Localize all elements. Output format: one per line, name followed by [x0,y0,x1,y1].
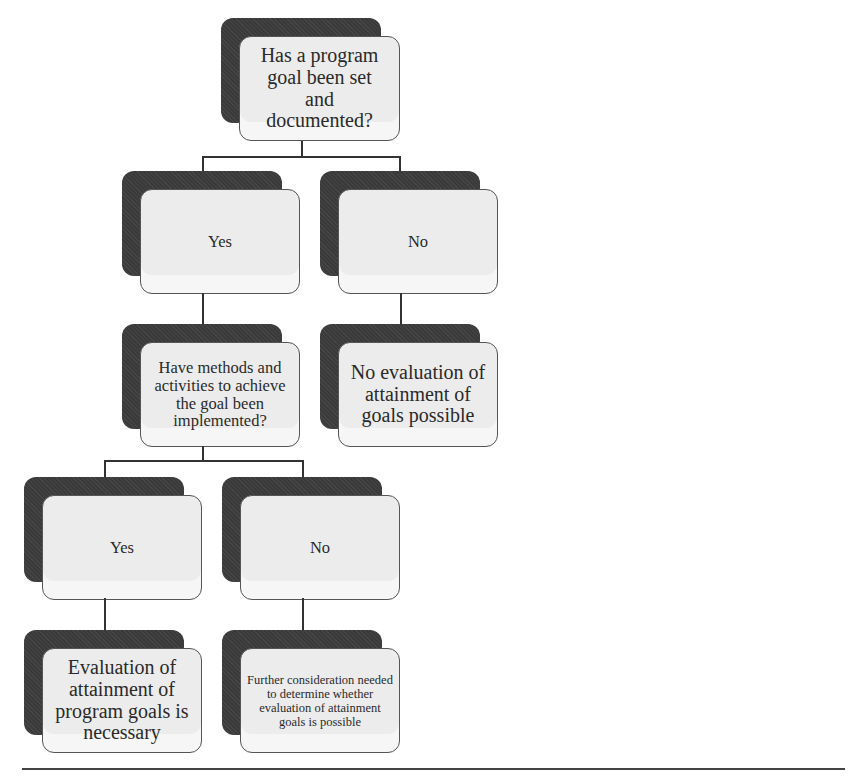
connector [400,293,402,324]
connector [202,156,204,172]
node-label: No [304,539,336,557]
node-box: Yes [140,189,300,294]
node-box: Evaluation of attainment of program goal… [42,648,202,753]
node-label: Yes [202,233,238,251]
bottom-rule-divider [22,768,845,770]
connector [202,446,204,461]
node-label: Have methods and activities to achieve t… [141,359,299,430]
node-box: No [338,189,498,294]
node-label: No evaluation of attainment of goals pos… [339,362,497,427]
node-label: Further consideration needed to determin… [241,673,399,729]
connector [202,293,204,324]
node-box: No evaluation of attainment of goals pos… [338,342,498,447]
node-label: Yes [104,539,140,557]
node-box: Further consideration needed to determin… [240,648,400,753]
node-label: Has a program goal been set and document… [240,45,399,131]
node-label: Evaluation of attainment of program goal… [43,657,201,743]
connector [104,460,106,477]
connector [302,598,304,630]
connector [104,460,303,462]
node-label: No [402,233,434,251]
connector [104,598,106,630]
node-box: Yes [42,495,202,600]
connector [399,156,401,172]
connector [302,460,304,477]
node-box: No [240,495,400,600]
connector [202,156,401,158]
node-box: Has a program goal been set and document… [239,36,400,141]
node-box: Have methods and activities to achieve t… [140,342,300,447]
connector [301,141,303,157]
